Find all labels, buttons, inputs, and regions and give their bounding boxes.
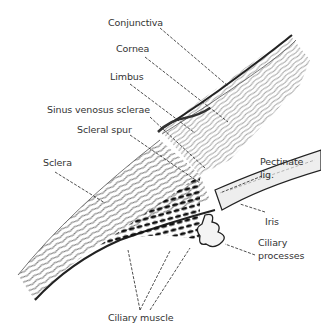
ciliary-processes [197,214,224,246]
label-limbus: Limbus [110,71,144,82]
label-sclera: Sclera [43,157,72,168]
label-ciliary-processes: processes [258,250,304,261]
label-scleral-spur: Scleral spur [77,124,132,135]
label-ciliary-muscle: Ciliary muscle [108,312,173,323]
label-sinus-venosus-sclerae: Sinus venosus sclerae [47,104,150,115]
cornea [160,35,310,175]
eye-angle-diagram: Conjunctiva Cornea Limbus Sinus venosus … [0,0,321,333]
label-pectinate: Pectinate [260,156,303,167]
label-cornea: Cornea [116,43,149,54]
label-pectinate-lig: lig. [260,169,274,180]
label-iris: Iris [265,216,279,227]
label-ciliary: Ciliary [258,237,287,248]
label-conjunctiva: Conjunctiva [108,17,163,28]
